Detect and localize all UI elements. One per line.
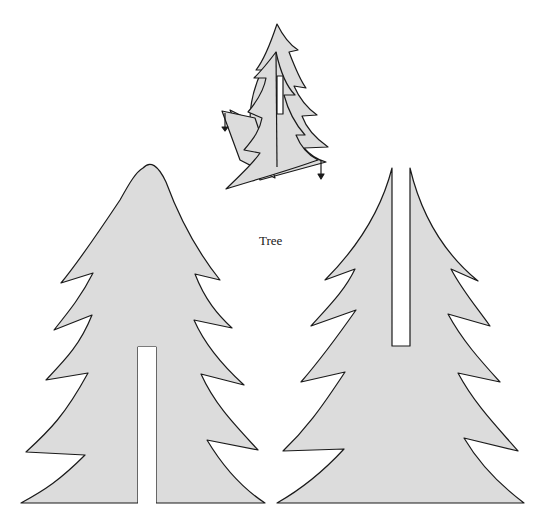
bottom-slot (138, 347, 156, 504)
tree-diagram (0, 0, 544, 525)
tree-label: Tree (259, 233, 282, 249)
tree-piece-top-slot (277, 168, 524, 503)
tree-piece-bottom-slot (21, 164, 265, 504)
assembled-tree (222, 24, 328, 189)
